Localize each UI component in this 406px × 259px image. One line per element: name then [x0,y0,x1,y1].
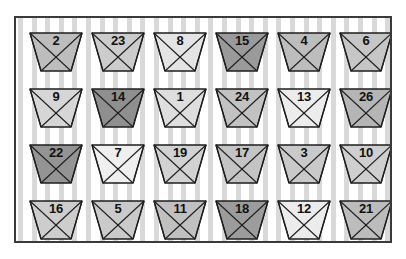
trapezoid-token[interactable]: 4 [276,30,332,75]
trapezoid-token[interactable]: 19 [152,142,208,187]
trapezoid-token[interactable]: 15 [214,30,270,75]
trapezoid-shape [28,142,84,187]
trapezoid-token[interactable]: 8 [152,30,208,75]
trapezoid-shape [152,86,208,131]
trapezoid-token[interactable]: 3 [276,142,332,187]
trapezoid-token[interactable]: 7 [90,142,146,187]
trapezoid-shape [338,86,392,131]
trapezoid-shape [152,198,208,243]
trapezoid-token[interactable]: 16 [28,198,84,243]
trapezoid-shape [152,30,208,75]
picture-frame: 223815469141241326227191731016511181221 [14,16,392,243]
trapezoid-shape [28,30,84,75]
trapezoid-token[interactable]: 9 [28,86,84,131]
trapezoid-token[interactable]: 1 [152,86,208,131]
trapezoid-shape [28,198,84,243]
trapezoid-token[interactable]: 5 [90,198,146,243]
token-grid: 223815469141241326227191731016511181221 [16,18,390,241]
trapezoid-shape [90,142,146,187]
trapezoid-token[interactable]: 6 [338,30,392,75]
trapezoid-token[interactable]: 11 [152,198,208,243]
trapezoid-token[interactable]: 23 [90,30,146,75]
trapezoid-shape [90,30,146,75]
trapezoid-token[interactable]: 2 [28,30,84,75]
trapezoid-shape [338,30,392,75]
trapezoid-token[interactable]: 12 [276,198,332,243]
trapezoid-token[interactable]: 14 [90,86,146,131]
trapezoid-token[interactable]: 17 [214,142,270,187]
trapezoid-token[interactable]: 10 [338,142,392,187]
trapezoid-shape [276,86,332,131]
trapezoid-token[interactable]: 18 [214,198,270,243]
trapezoid-shape [214,30,270,75]
trapezoid-shape [28,86,84,131]
trapezoid-shape [276,198,332,243]
scene-root: 223815469141241326227191731016511181221 [0,0,406,259]
trapezoid-shape [214,142,270,187]
trapezoid-token[interactable]: 21 [338,198,392,243]
trapezoid-shape [214,86,270,131]
trapezoid-shape [90,198,146,243]
trapezoid-shape [338,142,392,187]
trapezoid-shape [214,198,270,243]
trapezoid-token[interactable]: 22 [28,142,84,187]
trapezoid-shape [276,30,332,75]
trapezoid-token[interactable]: 26 [338,86,392,131]
trapezoid-shape [338,198,392,243]
trapezoid-token[interactable]: 13 [276,86,332,131]
trapezoid-token[interactable]: 24 [214,86,270,131]
trapezoid-shape [276,142,332,187]
trapezoid-shape [90,86,146,131]
trapezoid-shape [152,142,208,187]
